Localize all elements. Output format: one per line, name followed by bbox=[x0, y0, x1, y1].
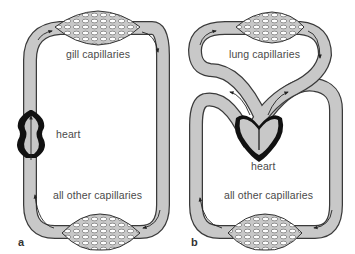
gill-capillary-bed bbox=[55, 11, 140, 45]
panel-letter-a: a bbox=[18, 236, 24, 248]
panel-letter-b: b bbox=[191, 236, 198, 248]
body-capillary-bed-a bbox=[62, 214, 140, 250]
lung-capillary-bed bbox=[236, 12, 304, 43]
body-capillary-bed-b bbox=[228, 214, 302, 250]
label-heart-b: heart bbox=[251, 160, 275, 172]
circulation-diagram bbox=[0, 0, 355, 254]
panel-a-circuit bbox=[17, 11, 163, 250]
label-lung-capillaries: lung capillaries bbox=[229, 48, 300, 60]
label-other-capillaries-b: all other capillaries bbox=[224, 189, 313, 201]
label-gill-capillaries: gill capillaries bbox=[66, 48, 130, 60]
label-other-capillaries-a: all other capillaries bbox=[53, 189, 142, 201]
label-heart-a: heart bbox=[56, 128, 80, 140]
